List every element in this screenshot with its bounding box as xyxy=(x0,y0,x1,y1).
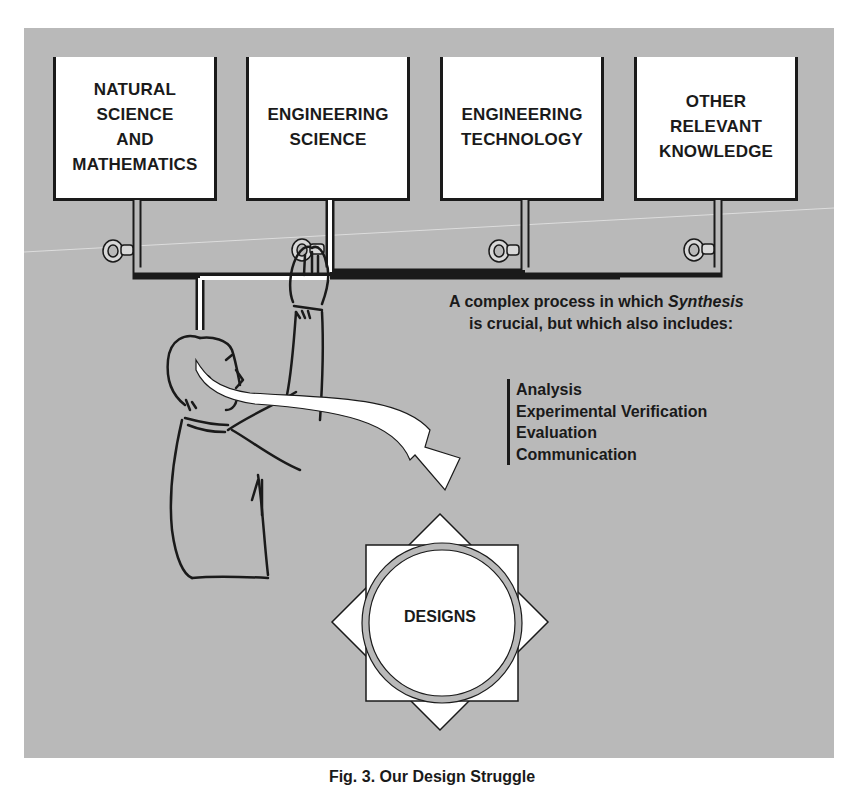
description-line-1: A complex process in which Synthesis xyxy=(449,291,829,313)
process-step-experimental-verification: Experimental Verification xyxy=(516,401,707,423)
figure-caption: Fig. 3. Our Design Struggle xyxy=(0,768,864,786)
engineer-figure-icon xyxy=(168,247,328,578)
process-steps-list: Analysis Experimental Verification Evalu… xyxy=(507,379,707,465)
process-description: A complex process in which Synthesis is … xyxy=(449,291,829,335)
valve-icon xyxy=(489,240,519,262)
valve-icon xyxy=(103,240,133,262)
valve-icon xyxy=(684,239,714,261)
designs-label: DESIGNS xyxy=(380,608,500,626)
description-line-2: is crucial, but which also includes: xyxy=(449,313,829,335)
process-step-evaluation: Evaluation xyxy=(516,422,707,444)
process-step-communication: Communication xyxy=(516,444,707,466)
process-step-analysis: Analysis xyxy=(516,379,707,401)
synthesis-emphasis: Synthesis xyxy=(668,293,744,310)
